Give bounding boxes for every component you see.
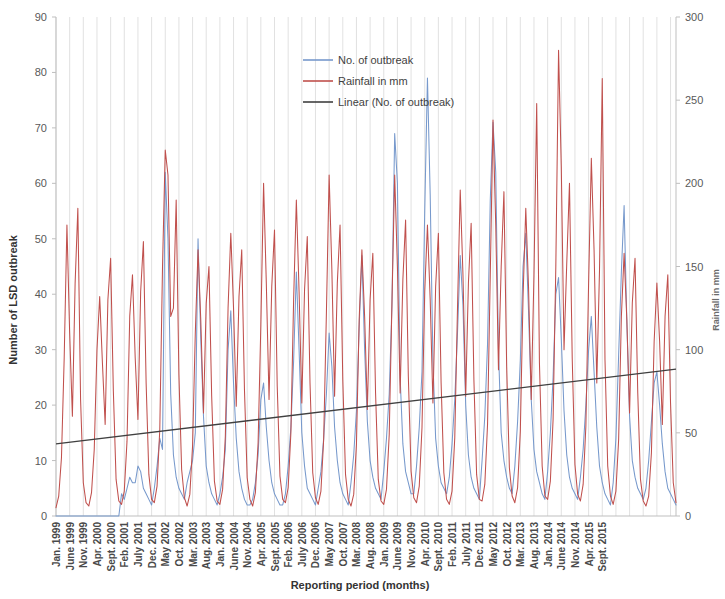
x-axis-tick-label: May 2012 [488, 522, 499, 567]
y-axis-right-tick: 200 [685, 177, 703, 189]
x-axis-tick-label: Jan. 2004 [215, 522, 226, 567]
y-axis-left-tick: 90 [35, 11, 47, 23]
x-axis-tick-label: Aug. 2008 [365, 522, 376, 570]
series-line-no-of-outbreak [56, 78, 676, 516]
chart-container: 0102030405060708090 050100150200250300 J… [0, 0, 725, 599]
y-axis-right-tick: 100 [685, 344, 703, 356]
y-axis-left-tick: 40 [35, 288, 47, 300]
lsd-outbreak-rainfall-chart: 0102030405060708090 050100150200250300 J… [0, 0, 725, 599]
y-axis-left-tick: 0 [41, 510, 47, 522]
y-axis-left-tick: 30 [35, 344, 47, 356]
y-axis-left-tick: 80 [35, 66, 47, 78]
x-axis-tick-label: Feb. 2011 [447, 522, 458, 567]
series-line-rainfall-in-mm [56, 50, 676, 507]
x-axis-tick-label: Aug. 2013 [529, 522, 540, 570]
x-axis-tick-label: June 2014 [556, 522, 567, 571]
data-series-group [56, 50, 676, 516]
x-axis-tick-label: July 2006 [297, 522, 308, 567]
y-axis-left-tick: 50 [35, 233, 47, 245]
x-axis-tick-label: Nov. 1999 [78, 522, 89, 568]
legend-label: No. of outbreak [338, 54, 414, 66]
x-axis-tick-label: Nov. 2004 [242, 522, 253, 568]
y-axis-right-tick: 0 [685, 510, 691, 522]
y-axis-right-tick: 250 [685, 94, 703, 106]
y-axis-right-title: Rainfall in mm [711, 269, 721, 331]
x-axis-tick-label: Nov. 2009 [406, 522, 417, 568]
axis-lines [56, 17, 676, 516]
y-axis-left-title: Number of LSD outbreak [7, 234, 19, 364]
y-axis-right-tick-labels: 050100150200250300 [676, 11, 703, 522]
x-axis-tick-label: Apr. 2005 [256, 522, 267, 567]
x-axis-tick-label: Dec. 2011 [474, 522, 485, 568]
y-axis-left-tick: 20 [35, 399, 47, 411]
x-axis-tick-label: Mar. 2008 [351, 522, 362, 567]
x-axis-tick-label: Oct. 2012 [502, 522, 513, 567]
x-axis-tick-label: Apr. 2010 [420, 522, 431, 567]
x-axis-tick-label: May 2007 [324, 522, 335, 567]
x-axis-tick-label: June 1999 [65, 522, 76, 571]
x-axis-tick-label: July 2011 [461, 522, 472, 567]
x-axis-tick-label: June 2009 [392, 522, 403, 571]
y-axis-right-tick: 50 [685, 427, 697, 439]
x-axis-tick-label: Mar. 2013 [515, 522, 526, 567]
x-axis-tick-label: Aug. 2003 [201, 522, 212, 570]
x-axis-title: Reporting period (months) [291, 579, 430, 591]
x-axis-tick-label: Oct. 2007 [338, 522, 349, 567]
x-axis-tick-label: June 2004 [229, 522, 240, 571]
legend-label: Linear (No. of outbreak) [338, 96, 454, 108]
y-axis-left-tick: 70 [35, 122, 47, 134]
x-axis-tick-label: Oct. 2002 [174, 522, 185, 567]
x-axis-tick-label: Mar. 2003 [188, 522, 199, 567]
chart-legend: No. of outbreakRainfall in mmLinear (No.… [303, 54, 454, 108]
legend-label: Rainfall in mm [338, 75, 408, 87]
x-axis-tick-label: Apr. 2000 [92, 522, 103, 567]
y-axis-left-tick: 10 [35, 455, 47, 467]
y-axis-left-tick: 60 [35, 177, 47, 189]
y-axis-left-tick-labels: 0102030405060708090 [35, 11, 56, 522]
x-axis-tick-label: Feb. 2006 [283, 522, 294, 568]
y-axis-right-tick: 300 [685, 11, 703, 23]
x-axis-tick-label: Dec. 2001 [147, 522, 158, 569]
x-axis-tick-label: Sept. 2000 [106, 522, 117, 572]
x-axis-tick-label: July 2001 [133, 522, 144, 567]
x-axis-tick-label: Nov. 2014 [570, 522, 581, 568]
x-axis-tick-label: Apr. 2015 [584, 522, 595, 567]
y-axis-right-tick: 150 [685, 261, 703, 273]
x-axis-tick-label: Sept. 2015 [597, 522, 608, 572]
x-axis-tick-label: Sept. 2010 [433, 522, 444, 572]
x-axis-tick-label: Jan. 2014 [543, 522, 554, 567]
x-axis-tick-label: Dec. 2006 [310, 522, 321, 569]
x-axis-tick-labels: Jan. 1999June 1999Nov. 1999Apr. 2000Sept… [51, 522, 608, 572]
x-axis-tick-label: May 2002 [160, 522, 171, 567]
x-axis-tick-label: Sept. 2005 [270, 522, 281, 572]
x-axis-tick-label: Jan. 1999 [51, 522, 62, 567]
x-axis-tick-label: Feb. 2001 [119, 522, 130, 568]
x-axis-tick-label: Jan. 2009 [379, 522, 390, 567]
